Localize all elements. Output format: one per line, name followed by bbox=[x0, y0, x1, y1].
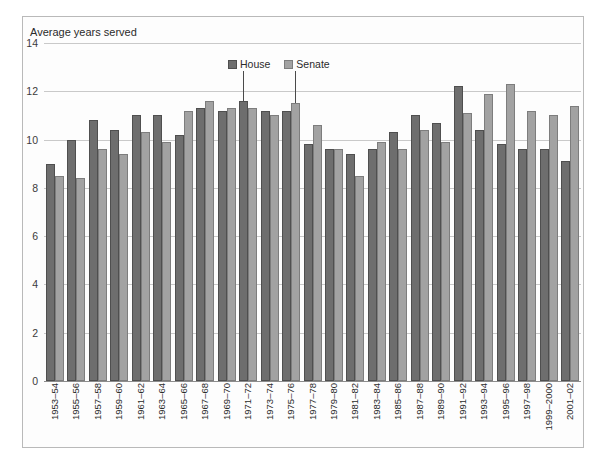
bar-house-1985-86 bbox=[389, 132, 398, 381]
bar-house-1975-76 bbox=[282, 111, 291, 381]
x-tick-label: 1975–76 bbox=[284, 383, 298, 447]
legend-label-senate: Senate bbox=[296, 58, 329, 70]
bar-group bbox=[346, 43, 364, 381]
bar-group bbox=[561, 43, 579, 381]
bar-house-1965-66 bbox=[175, 135, 184, 381]
y-tick-label-12: 12 bbox=[8, 86, 38, 97]
bar-house-1953-54 bbox=[46, 164, 55, 381]
bar-house-2001-02 bbox=[561, 161, 570, 381]
bar-house-1963-64 bbox=[153, 115, 162, 381]
bar-group bbox=[518, 43, 536, 381]
x-tick-label: 2001–02 bbox=[563, 383, 577, 447]
bar-house-1993-94 bbox=[475, 130, 484, 381]
y-tick-label-4: 4 bbox=[8, 279, 38, 290]
y-axis-title: Average years served bbox=[30, 26, 137, 38]
bar-house-1989-90 bbox=[432, 123, 441, 381]
bar-senate-1991-92 bbox=[463, 113, 472, 381]
bar-house-1973-74 bbox=[261, 111, 270, 381]
bar-group bbox=[497, 43, 515, 381]
bar-group bbox=[304, 43, 322, 381]
bar-senate-1953-54 bbox=[55, 176, 64, 381]
bar-house-1969-70 bbox=[218, 111, 227, 381]
bar-group bbox=[89, 43, 107, 381]
y-axis-tick-labels: 02468101214 bbox=[6, 43, 38, 381]
chart-legend: House Senate bbox=[228, 57, 330, 71]
bar-senate-1999-2000 bbox=[549, 115, 558, 381]
x-tick-label: 1957–58 bbox=[91, 383, 105, 447]
bar-senate-1975-76 bbox=[291, 103, 300, 381]
x-tick-label: 1973–74 bbox=[263, 383, 277, 447]
bar-group bbox=[261, 43, 279, 381]
bar-senate-1983-84 bbox=[377, 142, 386, 381]
house-swatch-icon bbox=[228, 60, 237, 69]
bar-group bbox=[132, 43, 150, 381]
bar-group bbox=[368, 43, 386, 381]
bar-senate-1963-64 bbox=[162, 142, 171, 381]
x-tick-label: 1987–88 bbox=[413, 383, 427, 447]
bar-senate-1977-78 bbox=[313, 125, 322, 381]
bar-senate-1981-82 bbox=[355, 176, 364, 381]
x-tick-label: 1979–80 bbox=[327, 383, 341, 447]
bar-group bbox=[239, 43, 257, 381]
senate-swatch-icon bbox=[284, 60, 293, 69]
bar-house-1997-98 bbox=[518, 149, 527, 381]
bar-group bbox=[153, 43, 171, 381]
bar-senate-1985-86 bbox=[398, 149, 407, 381]
bar-senate-1957-58 bbox=[98, 149, 107, 381]
bar-group bbox=[325, 43, 343, 381]
y-tick-label-2: 2 bbox=[8, 327, 38, 338]
bar-senate-1955-56 bbox=[76, 178, 85, 381]
chart-figure: Average years served 02468101214 1953–54… bbox=[0, 0, 602, 469]
leader-line-senate bbox=[295, 71, 296, 103]
bar-house-1983-84 bbox=[368, 149, 377, 381]
bar-house-1991-92 bbox=[454, 86, 463, 381]
bar-house-1981-82 bbox=[346, 154, 355, 381]
x-tick-label: 1999–2000 bbox=[542, 383, 556, 447]
bar-group bbox=[282, 43, 300, 381]
x-tick-label: 1989–90 bbox=[434, 383, 448, 447]
y-tick-label-0: 0 bbox=[8, 376, 38, 387]
y-tick-label-10: 10 bbox=[8, 134, 38, 145]
bar-senate-1989-90 bbox=[441, 142, 450, 381]
bar-house-1961-62 bbox=[132, 115, 141, 381]
x-tick-label: 1963–64 bbox=[155, 383, 169, 447]
legend-item-house: House bbox=[228, 58, 270, 70]
bar-group bbox=[67, 43, 85, 381]
bar-group bbox=[46, 43, 64, 381]
x-tick-label: 1953–54 bbox=[48, 383, 62, 447]
x-tick-label: 1961–62 bbox=[134, 383, 148, 447]
bar-house-1987-88 bbox=[411, 115, 420, 381]
bar-house-1967-68 bbox=[196, 108, 205, 381]
bar-group bbox=[175, 43, 193, 381]
bar-senate-1965-66 bbox=[184, 111, 193, 381]
bar-senate-1959-60 bbox=[119, 154, 128, 381]
x-axis-tick-labels: 1953–541955–561957–581959–601961–621963–… bbox=[44, 383, 581, 447]
bar-group bbox=[389, 43, 407, 381]
x-tick-label: 1997–98 bbox=[520, 383, 534, 447]
x-tick-label: 1971–72 bbox=[241, 383, 255, 447]
x-tick-label: 1993–94 bbox=[477, 383, 491, 447]
bar-senate-1973-74 bbox=[270, 115, 279, 381]
bar-house-1971-72 bbox=[239, 101, 248, 381]
bar-senate-1987-88 bbox=[420, 130, 429, 381]
legend-item-senate: Senate bbox=[284, 58, 329, 70]
bar-senate-1967-68 bbox=[205, 101, 214, 381]
bar-house-1977-78 bbox=[304, 144, 313, 381]
bar-group bbox=[218, 43, 236, 381]
y-tick-label-8: 8 bbox=[8, 183, 38, 194]
bar-group bbox=[540, 43, 558, 381]
x-tick-label: 1981–82 bbox=[348, 383, 362, 447]
x-tick-label: 1967–68 bbox=[198, 383, 212, 447]
bar-house-1955-56 bbox=[67, 140, 76, 381]
x-tick-label: 1955–56 bbox=[69, 383, 83, 447]
bar-senate-1993-94 bbox=[484, 94, 493, 381]
bar-senate-1969-70 bbox=[227, 108, 236, 381]
x-tick-label: 1995–96 bbox=[499, 383, 513, 447]
bar-senate-2001-02 bbox=[570, 106, 579, 381]
x-tick-label: 1969–70 bbox=[220, 383, 234, 447]
bar-group bbox=[454, 43, 472, 381]
bar-senate-1995-96 bbox=[506, 84, 515, 381]
x-axis-baseline bbox=[44, 381, 581, 382]
bar-house-1999-2000 bbox=[540, 149, 549, 381]
y-tick-label-6: 6 bbox=[8, 231, 38, 242]
